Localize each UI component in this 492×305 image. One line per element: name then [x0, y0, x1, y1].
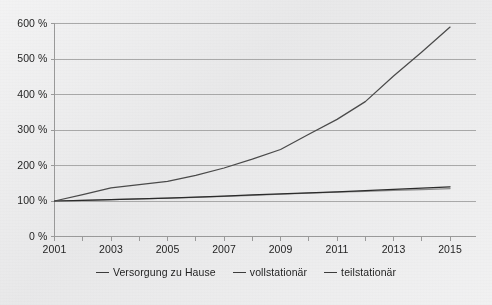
x-tick-label-2001: 2001: [30, 243, 80, 255]
y-tick-label-200: 200 %: [17, 159, 47, 171]
x-tick-label-2009: 2009: [256, 243, 306, 255]
x-tick-label-2015: 2015: [425, 243, 475, 255]
chart-legend: Versorgung zu Hausevollstationärteilstat…: [0, 266, 492, 278]
legend-label: teilstationär: [341, 266, 396, 278]
x-tick-label-2013: 2013: [369, 243, 419, 255]
legend-line-swatch-icon: [324, 272, 337, 273]
legend-label: vollstationär: [250, 266, 307, 278]
x-tick-marks: [55, 237, 451, 241]
y-tick-label-600: 600 %: [17, 17, 47, 29]
legend-item-1[interactable]: vollstationär: [233, 266, 307, 278]
series-line-2: [55, 187, 451, 201]
y-tick-label-100: 100 %: [17, 194, 47, 206]
x-tick-label-2003: 2003: [86, 243, 136, 255]
y-tick-label-0: 0 %: [29, 230, 47, 242]
legend-line-swatch-icon: [96, 272, 109, 273]
gridlines: [55, 24, 476, 202]
y-tick-label-400: 400 %: [17, 88, 47, 100]
series-line-0: [55, 27, 451, 201]
y-tick-label-500: 500 %: [17, 52, 47, 64]
legend-label: Versorgung zu Hause: [113, 266, 216, 278]
series-lines: [55, 27, 451, 201]
legend-item-2[interactable]: teilstationär: [324, 266, 396, 278]
line-chart: 0 %100 %200 %300 %400 %500 %600 % 200120…: [0, 0, 492, 305]
y-tick-label-300: 300 %: [17, 123, 47, 135]
x-tick-label-2011: 2011: [312, 243, 362, 255]
legend-line-swatch-icon: [233, 272, 246, 273]
legend-item-0[interactable]: Versorgung zu Hause: [96, 266, 216, 278]
x-tick-label-2005: 2005: [143, 243, 193, 255]
plot-area: [0, 0, 492, 305]
x-tick-label-2007: 2007: [199, 243, 249, 255]
